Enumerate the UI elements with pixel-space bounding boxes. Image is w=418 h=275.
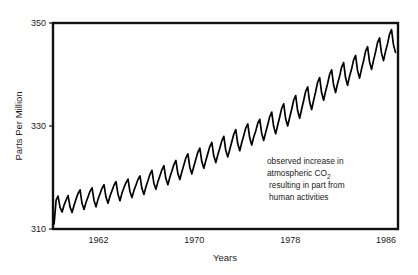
x-tick-label-1970: 1970 (184, 235, 204, 245)
co2-concentration-line (54, 30, 395, 224)
plot-frame (53, 23, 398, 229)
annotation-subscript: 2 (327, 173, 331, 180)
y-tick-label-350: 350 (31, 18, 46, 28)
y-axis-title: Parts Per Million (13, 91, 24, 160)
keeling-curve-chart: 310330350 1962197019781986 Parts Per Mil… (0, 0, 418, 275)
y-tick-label-330: 330 (31, 121, 46, 131)
annotation-line-1: observed increase in (267, 156, 344, 166)
x-axis-tick-labels: 1962197019781986 (89, 235, 397, 245)
annotation-line-2-text: atmospheric CO (267, 168, 327, 178)
co2-chart-figure: 310330350 1962197019781986 Parts Per Mil… (0, 0, 418, 275)
x-tick-label-1962: 1962 (89, 235, 109, 245)
x-tick-label-1986: 1986 (376, 235, 396, 245)
y-tick-label-310: 310 (31, 224, 46, 234)
x-tick-label-1978: 1978 (280, 235, 300, 245)
x-axis-title: Years (213, 252, 237, 263)
y-axis-tick-labels: 310330350 (31, 18, 46, 234)
co2-annotation: observed increase in atmospheric CO2 res… (267, 156, 345, 202)
annotation-line-3: resulting in part from (269, 180, 345, 190)
annotation-line-2: atmospheric CO2 (267, 168, 331, 180)
annotation-line-4: human activities (269, 192, 329, 202)
